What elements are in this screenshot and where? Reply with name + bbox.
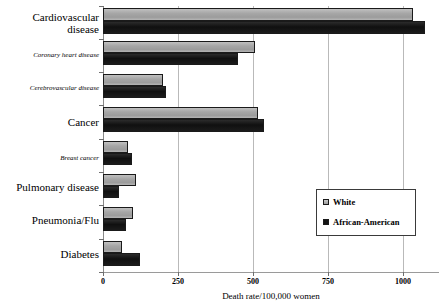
legend-item-african-american: African-American: [323, 217, 415, 226]
x-tick-label-250: 250: [163, 277, 193, 286]
x-tick-label-500: 500: [238, 277, 268, 286]
bar-white-pneumonia-flu: [103, 207, 133, 219]
legend-label-white: White: [333, 197, 355, 207]
category-label-cardiovascular-disease: Cardiovascular disease: [3, 12, 99, 35]
category-label-pneumonia-flu: Pneumonia/Flu: [3, 215, 99, 227]
legend-label-african-american: African-American: [333, 217, 400, 227]
bar-african-pneumonia-flu: [103, 219, 126, 231]
x-tick-label-750: 750: [313, 277, 343, 286]
category-label-cancer: Cancer: [3, 117, 99, 129]
x-tick-label-0: 0: [88, 277, 118, 286]
african-american-swatch-icon: [323, 219, 329, 225]
bar-african-pulmonary-disease: [103, 186, 119, 198]
bar-african-diabetes: [103, 253, 140, 266]
bar-african-cardiovascular-disease: [103, 21, 425, 34]
category-label-column: Cardiovascular disease Coronary heart di…: [0, 0, 99, 307]
category-label-diabetes: Diabetes: [3, 249, 99, 261]
x-tick-label-1000: 1000: [388, 277, 418, 286]
bar-chart-figure: Cardiovascular disease Coronary heart di…: [0, 0, 443, 307]
bar-white-cardiovascular-disease: [103, 8, 413, 21]
category-label-coronary-heart-disease: Coronary heart disease: [3, 52, 99, 59]
bar-african-coronary-heart-disease: [103, 53, 238, 65]
x-axis-tick-500: [253, 272, 254, 276]
category-label-pulmonary-disease: Pulmonary disease: [3, 182, 99, 194]
white-swatch-icon: [323, 199, 329, 205]
bar-african-cancer: [103, 119, 264, 132]
x-axis-tick-750: [328, 272, 329, 276]
category-label-breast-cancer: Breast cancer: [3, 155, 99, 162]
category-label-cerebrovascular-disease: Cerebrovascular disease: [3, 85, 99, 92]
legend-item-white: White: [323, 197, 415, 206]
x-axis-tick-1000: [403, 272, 404, 276]
bar-white-breast-cancer: [103, 141, 128, 153]
bar-african-breast-cancer: [103, 153, 132, 165]
x-axis-tick-0: [103, 272, 104, 276]
bar-white-coronary-heart-disease: [103, 41, 255, 53]
bar-white-cerebrovascular-disease: [103, 74, 163, 86]
bar-white-cancer: [103, 107, 258, 119]
bar-white-pulmonary-disease: [103, 174, 136, 186]
chart-legend: White African-American: [316, 189, 416, 236]
x-axis-title: Death rate/100,000 women: [103, 291, 439, 301]
bar-white-diabetes: [103, 241, 122, 253]
x-axis-tick-250: [178, 272, 179, 276]
bar-african-cerebrovascular-disease: [103, 86, 166, 98]
x-axis-line: [103, 272, 439, 273]
